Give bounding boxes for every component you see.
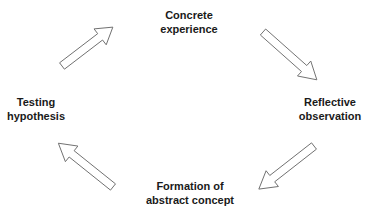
stage-testing-hypothesis: Testing hypothesis	[7, 96, 65, 123]
arrow-down-right-icon	[256, 25, 323, 88]
stage-label-line: abstract concept	[146, 194, 234, 208]
arrow-up-left-icon	[52, 135, 119, 194]
stage-label-line: Reflective	[299, 96, 361, 110]
arrow-up-right-icon	[56, 19, 119, 74]
stage-label-line: Formation of	[146, 180, 234, 194]
stage-reflective-observation: Reflective observation	[299, 96, 361, 123]
arrow-down-left-icon	[253, 138, 320, 197]
stage-label-line: observation	[299, 110, 361, 124]
stage-label-line: Testing	[7, 96, 65, 110]
stage-concrete-experience: Concrete experience	[160, 9, 217, 36]
learning-cycle-diagram: Concrete experience Reflective observati…	[0, 0, 368, 215]
stage-label-line: Concrete	[160, 9, 217, 23]
stage-abstract-concept: Formation of abstract concept	[146, 180, 234, 207]
stage-label-line: hypothesis	[7, 110, 65, 124]
stage-label-line: experience	[160, 23, 217, 37]
